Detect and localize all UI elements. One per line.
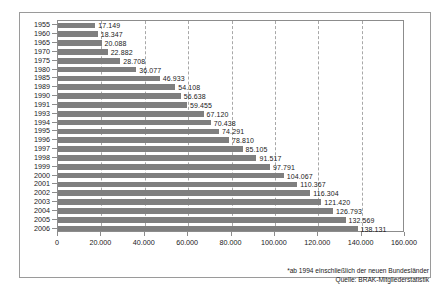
bar-row: 85.105 [58, 146, 405, 152]
bar-series: 17.14918.34720.08822.88228.70836.07746.9… [58, 21, 403, 231]
bar [58, 120, 211, 126]
y-axis-tick-label: 2004 [34, 205, 50, 214]
bar [58, 84, 175, 90]
x-axis-tick [187, 232, 188, 236]
bar-value-label: 17.149 [98, 22, 120, 29]
bar [58, 217, 346, 223]
x-axis-tick [317, 232, 318, 236]
bar [58, 67, 136, 73]
bar-value-label: 126.793 [336, 207, 362, 214]
bar [58, 111, 204, 117]
bar [58, 137, 229, 143]
x-axis-tick [144, 232, 145, 236]
bar [58, 190, 310, 196]
footnote-note: *ab 1994 einschließlich der neuen Bundes… [287, 267, 429, 276]
y-axis-tick-label: 1955 [34, 20, 50, 29]
bar-row: 54.108 [58, 84, 405, 90]
bar-row: 104.067 [58, 173, 405, 179]
bar [58, 93, 181, 99]
bar [58, 31, 98, 37]
y-axis-tick-label: 1991 [34, 99, 50, 108]
bar-row: 97.791 [58, 164, 405, 170]
y-axis-tick-label: 2003 [34, 197, 50, 206]
x-axis-tick-label: 140.000 [348, 238, 374, 247]
bar [58, 164, 270, 170]
y-axis-tick-label: 1998 [34, 152, 50, 161]
bar [58, 199, 321, 205]
bar-value-label: 67.120 [207, 110, 229, 117]
bar-row: 18.347 [58, 31, 405, 37]
x-axis: 020.00040.00060.00080.000100.000120.0001… [57, 232, 404, 254]
y-axis-tick-label: 1965 [34, 38, 50, 47]
bar-value-label: 54.108 [178, 84, 200, 91]
bar [58, 102, 187, 108]
y-axis-tick-label: 2006 [34, 223, 50, 232]
bar-value-label: 56.638 [184, 93, 206, 100]
y-axis-tick-label: 1997 [34, 144, 50, 153]
y-axis-tick-label: 1975 [34, 55, 50, 64]
bar-row: 20.088 [58, 40, 405, 46]
bar-value-label: 85.105 [246, 146, 268, 153]
y-axis-tick-label: 1960 [34, 29, 50, 38]
bar-row: 70.438 [58, 120, 405, 126]
y-axis-category-labels: 1955196019651970197519801985198919901991… [0, 20, 57, 232]
bar-row: 59.455 [58, 102, 405, 108]
plot-area: 17.14918.34720.08822.88228.70836.07746.9… [57, 20, 404, 232]
bar-value-label: 121.420 [324, 199, 350, 206]
x-axis-tick-label: 40.000 [133, 238, 155, 247]
bar-value-label: 20.088 [105, 40, 127, 47]
bar [58, 129, 219, 135]
x-axis-tick-label: 100.000 [261, 238, 287, 247]
bar [58, 40, 102, 46]
bar-row: 46.933 [58, 76, 405, 82]
bar-row: 74.291 [58, 129, 405, 135]
footnote-block: *ab 1994 einschließlich der neuen Bundes… [287, 267, 429, 285]
y-axis-tick-label: 1999 [34, 161, 50, 170]
y-axis-tick-label: 1995 [34, 126, 50, 135]
y-axis-tick-label: 1985 [34, 73, 50, 82]
x-axis-tick-label: 120.000 [304, 238, 330, 247]
bar-row: 67.120 [58, 111, 405, 117]
bar-row: 22.882 [58, 49, 405, 55]
bar-value-label: 97.791 [273, 163, 295, 170]
x-axis-tick [57, 232, 58, 236]
x-axis-tick [100, 232, 101, 236]
y-axis-tick-label: 1989 [34, 82, 50, 91]
y-axis-tick-label: 1996 [34, 135, 50, 144]
bar-value-label: 74.291 [222, 128, 244, 135]
bar-row: 17.149 [58, 23, 405, 29]
bar-row: 132.569 [58, 217, 405, 223]
bar-value-label: 104.067 [287, 172, 313, 179]
bar-value-label: 36.077 [139, 66, 161, 73]
y-axis-tick-label: 1994 [34, 117, 50, 126]
bar-row: 116.304 [58, 190, 405, 196]
bar [58, 173, 284, 179]
bar [58, 49, 108, 55]
bar [58, 76, 160, 82]
bar-value-label: 78.810 [232, 137, 254, 144]
x-axis-tick [404, 232, 405, 236]
chart-figure: 1955196019651970197519801985198919901991… [0, 0, 443, 297]
bar-row: 56.638 [58, 93, 405, 99]
footnote-source: Quelle: BRAK-Mitgliederstatistik [287, 276, 429, 285]
x-axis-tick-label: 160.000 [391, 238, 417, 247]
bar [58, 208, 333, 214]
bar-value-label: 70.438 [214, 119, 236, 126]
bar [58, 146, 243, 152]
bar-row: 36.077 [58, 67, 405, 73]
bar-row: 78.810 [58, 137, 405, 143]
y-axis-tick-label: 1970 [34, 46, 50, 55]
bar [58, 226, 358, 232]
x-axis-tick [231, 232, 232, 236]
x-axis-tick-label: 60.000 [176, 238, 198, 247]
bar [58, 58, 120, 64]
bar-value-label: 59.455 [190, 101, 212, 108]
y-axis-tick-label: 1990 [34, 91, 50, 100]
y-axis-tick-label: 2001 [34, 179, 50, 188]
x-axis-tick [274, 232, 275, 236]
bar-value-label: 132.569 [349, 216, 375, 223]
x-axis-tick [361, 232, 362, 236]
bar-value-label: 22.882 [111, 48, 133, 55]
bar-value-label: 110.367 [300, 181, 325, 188]
x-axis-tick-label: 80.000 [220, 238, 242, 247]
